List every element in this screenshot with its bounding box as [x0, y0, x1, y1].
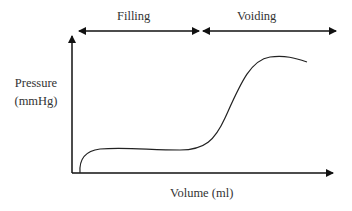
pressure-curve — [80, 56, 307, 173]
y-axis-label-line1: Pressure — [6, 74, 66, 92]
filling-label: Filling — [117, 9, 150, 24]
voiding-label: Voiding — [237, 9, 276, 24]
x-axis-label: Volume (ml) — [170, 186, 233, 201]
y-axis-label-line2: (mmHg) — [6, 92, 66, 110]
y-axis-label: Pressure (mmHg) — [6, 74, 66, 110]
